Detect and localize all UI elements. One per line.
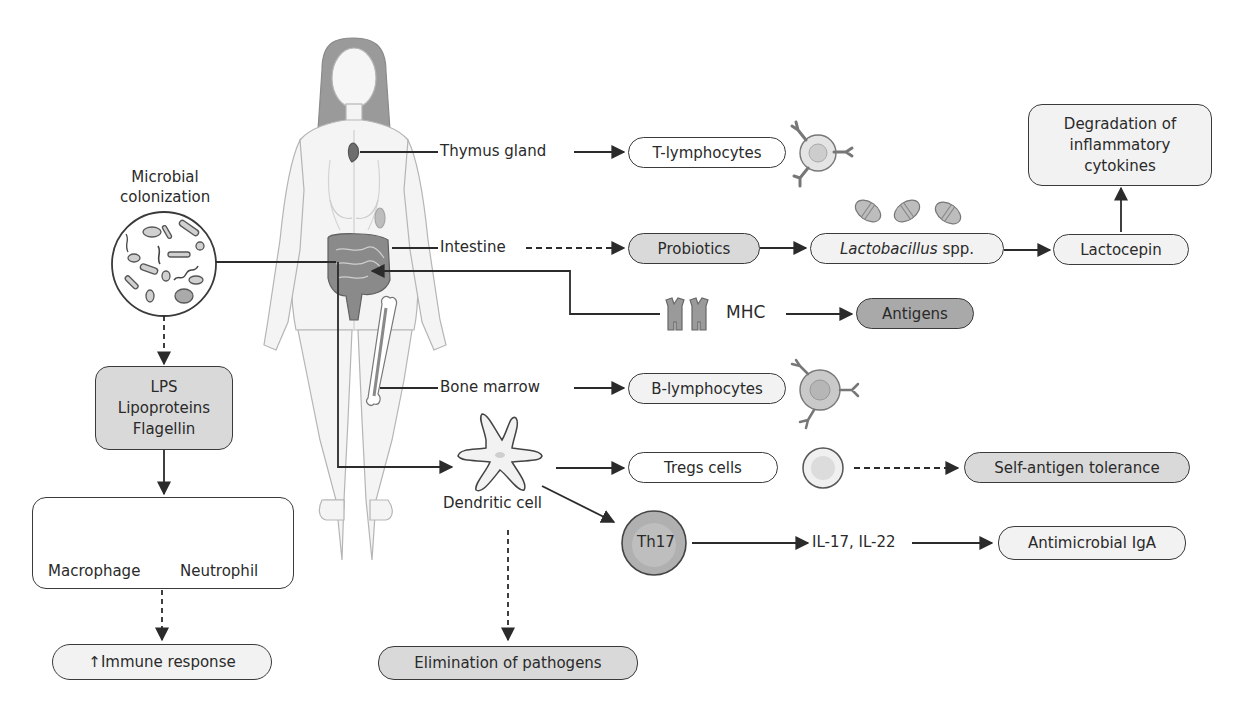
lipoproteins-label: Lipoproteins xyxy=(118,398,210,419)
probiotics-box: Probiotics xyxy=(628,233,760,264)
mhc-label: MHC xyxy=(726,302,765,322)
flagellin-label: Flagellin xyxy=(133,419,196,440)
b-lymphocytes-box: B-lymphocytes xyxy=(628,373,786,404)
lactobacillus-box: Lactobacillus spp. xyxy=(810,233,1004,264)
antigens-box: Antigens xyxy=(856,298,974,329)
antimicrobial-iga-box: Antimicrobial IgA xyxy=(998,526,1186,560)
title-line: colonization xyxy=(120,187,210,207)
lps-box: LPS Lipoproteins Flagellin xyxy=(95,366,233,450)
immune-microbiome-diagram: Microbial colonization LPS Lipoproteins … xyxy=(0,0,1241,714)
b-lymphocyte-icon xyxy=(792,360,858,428)
t-lymphocytes-box: T-lymphocytes xyxy=(628,137,786,168)
bone-marrow-label: Bone marrow xyxy=(440,378,540,396)
lps-label: LPS xyxy=(151,377,178,398)
immune-response-box: ↑Immune response xyxy=(52,644,272,680)
macrophage-label: Macrophage xyxy=(48,562,140,580)
treg-cell-icon xyxy=(803,448,843,488)
self-antigen-tolerance-box: Self-antigen tolerance xyxy=(964,452,1190,483)
microbe-circle-icon xyxy=(112,212,216,316)
lactobacillus-icon xyxy=(851,196,964,229)
lactobacillus-genus: Lactobacillus xyxy=(840,240,938,258)
tregs-box: Tregs cells xyxy=(628,452,778,483)
degradation-line: Degradation of xyxy=(1064,114,1176,135)
elimination-of-pathogens-box: Elimination of pathogens xyxy=(378,646,638,680)
lactobacillus-spp: spp. xyxy=(938,240,974,258)
degradation-line: inflammatory xyxy=(1070,135,1171,156)
mhc-icon xyxy=(666,298,708,330)
microbial-colonization-title: Microbial colonization xyxy=(120,167,210,207)
human-body-icon xyxy=(264,38,446,560)
dendritic-cell-label: Dendritic cell xyxy=(443,494,542,512)
thymus-label: Thymus gland xyxy=(440,142,546,160)
degradation-box: Degradation of inflammatory cytokines xyxy=(1028,104,1212,186)
th17-label: Th17 xyxy=(637,533,675,551)
il-cytokines-label: IL-17, IL-22 xyxy=(812,533,896,551)
neutrophil-label: Neutrophil xyxy=(180,562,258,580)
dendritic-cell-icon xyxy=(458,414,542,491)
title-line: Microbial xyxy=(120,167,210,187)
lactocepin-box: Lactocepin xyxy=(1053,234,1189,265)
t-lymphocyte-icon xyxy=(792,122,852,186)
intestine-label: Intestine xyxy=(440,238,506,256)
degradation-line: cytokines xyxy=(1084,156,1156,177)
